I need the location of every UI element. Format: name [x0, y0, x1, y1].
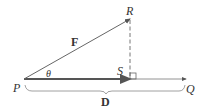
- work-diagram: P Q R S θ F D: [0, 0, 202, 112]
- label-force: F: [71, 35, 78, 49]
- label-q: Q: [186, 82, 195, 96]
- right-angle-icon: [130, 73, 136, 79]
- label-r: R: [125, 4, 134, 18]
- label-s: S: [117, 64, 123, 78]
- label-theta: θ: [46, 68, 51, 79]
- label-displacement: D: [101, 95, 110, 109]
- vector-f: [24, 19, 130, 79]
- label-p: P: [12, 81, 21, 95]
- brace-d: [25, 85, 185, 94]
